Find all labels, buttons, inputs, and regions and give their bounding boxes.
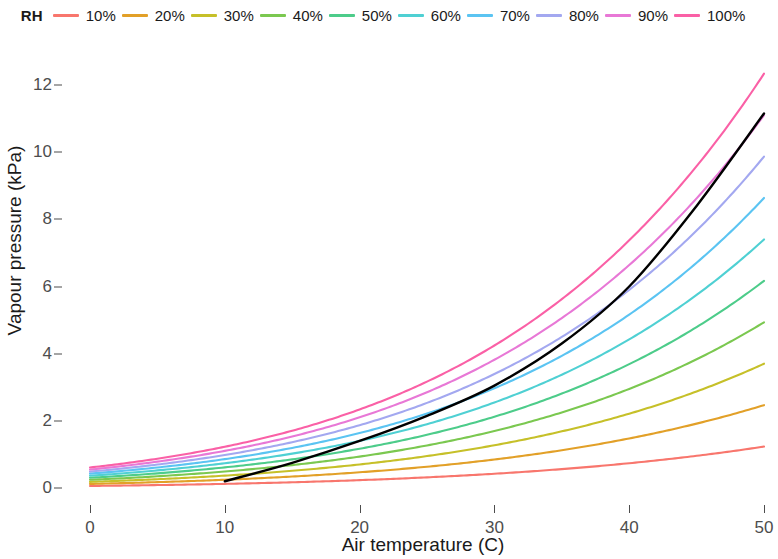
x-tick-mark (764, 505, 765, 513)
x-tick-mark (90, 505, 91, 513)
x-axis-title: Air temperature (C) (74, 534, 772, 558)
x-tick-mark (494, 505, 495, 513)
x-tick-mark (225, 505, 226, 513)
x-tick-mark (629, 505, 630, 513)
x-tick-mark (360, 505, 361, 513)
